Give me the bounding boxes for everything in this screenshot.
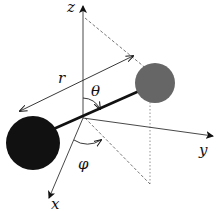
y-axis xyxy=(83,118,213,136)
theta-label: θ xyxy=(91,82,100,100)
radius-arrow xyxy=(20,56,133,111)
projection-dashed-xy xyxy=(85,118,150,184)
x-axis-label: x xyxy=(51,195,60,211)
large-atom xyxy=(6,116,60,170)
phi-label: φ xyxy=(78,155,89,173)
diagram-canvas: z y x r θ φ xyxy=(0,0,220,211)
z-axis-label: z xyxy=(66,0,75,16)
small-atom xyxy=(135,63,175,103)
phi-arc xyxy=(74,140,101,144)
projection-dashed-z xyxy=(85,18,148,70)
radius-label: r xyxy=(58,69,66,87)
y-axis-label: y xyxy=(198,141,208,159)
